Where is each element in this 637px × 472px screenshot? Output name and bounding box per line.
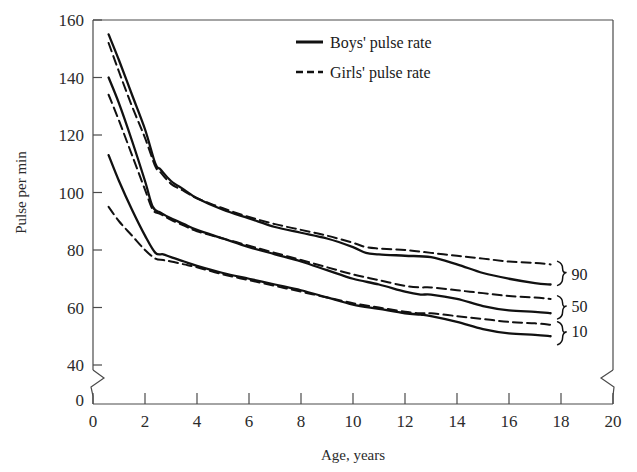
x-tick-label: 12 [397,412,414,431]
x-tick-label: 16 [501,412,518,431]
legend-label-girls: Girls' pulse rate [330,64,431,82]
x-tick-label: 8 [297,412,306,431]
x-tick-label: 14 [449,412,467,431]
y-tick-label: 80 [67,241,84,260]
y-origin-label: 0 [76,391,85,410]
x-axis-break-mark [601,370,614,404]
y-tick-label: 40 [67,356,84,375]
x-tick-label: 20 [605,412,622,431]
legend-label-boys: Boys' pulse rate [330,34,432,52]
y-tick-label: 140 [59,69,85,88]
band-brace-10 [558,322,567,345]
pulse-rate-chart: 406080100120140160002468101214161820Age,… [0,0,637,472]
y-tick-label: 100 [59,184,85,203]
series-line-50-girls [109,95,551,299]
y-axis-title: Pulse per min [13,151,29,234]
x-tick-label: 10 [345,412,362,431]
x-tick-label: 4 [193,412,202,431]
y-tick-label: 120 [59,126,85,145]
band-label-90: 90 [572,266,588,283]
series-line-50-boys [109,78,551,314]
band-label-50: 50 [572,298,588,315]
x-axis-title: Age, years [321,447,385,463]
band-brace-90 [558,261,567,285]
x-tick-label: 0 [89,412,98,431]
band-label-10: 10 [572,323,588,340]
x-tick-label: 18 [553,412,570,431]
y-tick-label: 60 [67,299,84,318]
series-line-10-boys [109,155,551,336]
y-tick-label: 160 [59,11,85,30]
band-brace-50 [558,296,567,319]
x-tick-label: 6 [245,412,254,431]
x-tick-label: 2 [141,412,150,431]
chart-canvas: 406080100120140160002468101214161820Age,… [0,0,637,472]
